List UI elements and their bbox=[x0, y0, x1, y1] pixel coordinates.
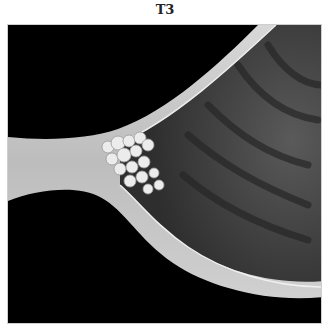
figure-title: T3 bbox=[0, 2, 330, 17]
anatomical-illustration bbox=[8, 25, 322, 324]
illustration-frame bbox=[7, 24, 322, 324]
